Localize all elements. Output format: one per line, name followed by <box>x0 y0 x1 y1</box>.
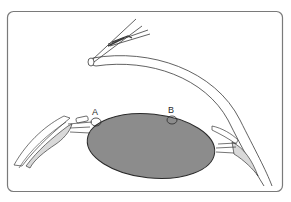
diagram-canvas: A B <box>0 0 291 202</box>
label-b: B <box>168 105 174 115</box>
label-a: A <box>92 107 98 117</box>
